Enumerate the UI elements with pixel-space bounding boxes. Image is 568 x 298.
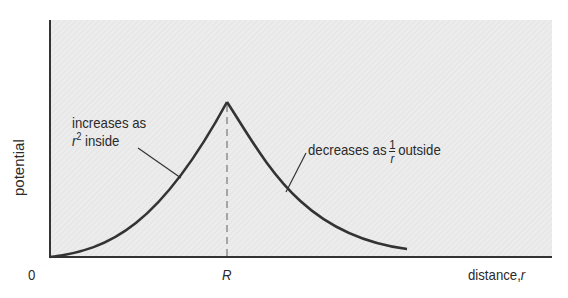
plot — [0, 0, 568, 298]
r-tick-label: R — [222, 266, 232, 283]
origin-label: 0 — [28, 266, 35, 283]
inside-line2: r2 inside — [72, 131, 146, 149]
x-axis-label: distance,r — [468, 266, 525, 283]
fraction-1-over-r: 1r — [389, 138, 395, 165]
inside-line1: increases as — [72, 114, 146, 131]
outside-annotation: decreases as1routside — [308, 138, 441, 165]
inside-annotation: increases as r2 inside — [72, 114, 146, 149]
y-axis-label: potential — [10, 139, 27, 196]
